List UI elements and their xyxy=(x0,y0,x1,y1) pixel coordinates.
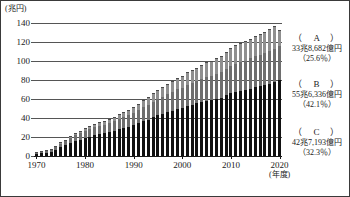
y-axis-unit-label: (兆円) xyxy=(5,4,26,14)
legend-value-label: 55兆6,336億円 xyxy=(285,90,349,100)
y-tick-label: 20 xyxy=(4,133,30,142)
x-tick-mark xyxy=(134,156,135,159)
legend-key-label: （ C ） xyxy=(285,127,349,138)
legend-entry-a: （ A ）33兆8,682億円（25.6％） xyxy=(285,33,349,64)
x-tick-mark xyxy=(85,156,86,159)
legend-entry-c: （ C ）42兆7,193億円（32.3％） xyxy=(285,127,349,158)
plot-area: 020406080100120140 197019801990200020102… xyxy=(34,23,282,156)
axis-ticks-layer: 197019801990200020102020(年度) xyxy=(34,23,282,156)
x-tick-mark xyxy=(36,156,37,159)
legend-percent-label: （42.1％） xyxy=(285,100,349,110)
y-tick-label: 80 xyxy=(4,76,30,85)
y-tick-label: 140 xyxy=(4,19,30,28)
x-tick-label: 2000 xyxy=(173,160,191,170)
legend-key-label: （ B ） xyxy=(285,79,349,90)
y-tick-label: 60 xyxy=(4,95,30,104)
x-tick-mark xyxy=(231,156,232,159)
legend-entry-b: （ B ）55兆6,336億円（42.1％） xyxy=(285,79,349,110)
legend-value-label: 33兆8,682億円 xyxy=(285,44,349,54)
chart-legend: （ A ）33兆8,682億円（25.6％）（ B ）55兆6,336億円（42… xyxy=(285,23,349,163)
y-tick-label: 100 xyxy=(4,57,30,66)
legend-key-label: （ A ） xyxy=(285,33,349,44)
x-tick-label: 1980 xyxy=(76,160,94,170)
x-tick-mark xyxy=(280,156,281,159)
y-tick-label: 0 xyxy=(4,152,30,161)
legend-percent-label: （25.6％） xyxy=(285,54,349,64)
chart-figure: (兆円) 020406080100120140 1970198019902000… xyxy=(0,0,350,197)
y-tick-label: 40 xyxy=(4,114,30,123)
y-tick-mark xyxy=(31,156,34,157)
gridline xyxy=(34,156,282,157)
y-tick-label: 120 xyxy=(4,38,30,47)
legend-value-label: 42兆7,193億円 xyxy=(285,138,349,148)
x-tick-label: 1990 xyxy=(125,160,143,170)
x-axis-unit-label: (年度) xyxy=(269,170,290,179)
x-tick-label: 2010 xyxy=(222,160,240,170)
x-tick-label: 1970 xyxy=(27,160,45,170)
legend-percent-label: （32.3％） xyxy=(285,148,349,158)
x-tick-mark xyxy=(182,156,183,159)
